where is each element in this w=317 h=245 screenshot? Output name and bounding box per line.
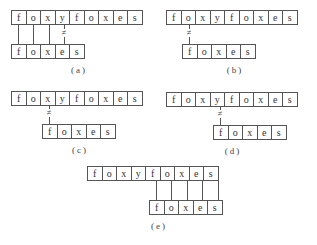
text-cell: o (26, 10, 42, 25)
pattern-cell: x (40, 44, 56, 59)
text-cell: s (203, 166, 219, 181)
pattern-cell: e (257, 125, 273, 140)
pattern-cell: f (11, 44, 27, 59)
not-equal-icon: ≠ (62, 29, 66, 37)
match-line (187, 181, 188, 200)
text-cell: x (40, 10, 56, 25)
not-equal-icon: ≠ (218, 110, 222, 118)
pattern-cell: o (164, 200, 180, 215)
pattern-cell: o (26, 44, 42, 59)
text-cell: e (268, 92, 284, 107)
text-cell: o (84, 91, 100, 106)
text-cell: x (98, 10, 114, 25)
pattern-cell: e (55, 44, 71, 59)
text-cell: f (87, 166, 103, 181)
text-cell: f (145, 166, 161, 181)
pattern-cell: f (182, 44, 198, 59)
pattern-cell: o (228, 125, 244, 140)
match-line (202, 181, 203, 200)
text-cell: y (55, 91, 71, 106)
pattern-cell: f (213, 125, 229, 140)
text-cell: y (210, 10, 226, 25)
pattern-row: f o x e s (42, 124, 116, 139)
text-cell: s (282, 10, 298, 25)
text-cell: f (69, 10, 85, 25)
text-cell: o (26, 91, 42, 106)
pattern-cell: o (197, 44, 213, 59)
pattern-cell: s (69, 44, 85, 59)
pattern-cell: x (211, 44, 227, 59)
pattern-cell: s (100, 124, 116, 139)
text-cell: y (131, 166, 147, 181)
caption-d: (d) (225, 146, 242, 156)
pattern-cell: o (57, 124, 73, 139)
match-line (49, 25, 50, 44)
text-row: f o x y f o x e s (87, 166, 219, 181)
text-cell: f (224, 10, 240, 25)
pattern-cell: s (271, 125, 287, 140)
text-cell: s (127, 10, 143, 25)
pattern-row: f o x e s (11, 44, 85, 59)
not-equal-icon: ≠ (187, 29, 191, 37)
pattern-cell: e (226, 44, 242, 59)
match-line (18, 25, 19, 44)
text-cell: e (268, 10, 284, 25)
text-cell: o (102, 166, 118, 181)
text-cell: y (210, 92, 226, 107)
text-cell: x (98, 91, 114, 106)
text-cell: o (84, 10, 100, 25)
caption-c: (c) (72, 145, 88, 155)
pattern-cell: f (42, 124, 58, 139)
pattern-cell: s (240, 44, 256, 59)
text-cell: y (55, 10, 71, 25)
caption-b: (b) (227, 65, 244, 75)
text-cell: f (166, 92, 182, 107)
text-cell: f (69, 91, 85, 106)
not-equal-icon: ≠ (47, 109, 51, 117)
text-cell: o (181, 92, 197, 107)
pattern-cell: x (242, 125, 258, 140)
text-row: f o x y f o x e s (166, 92, 298, 107)
match-line (171, 181, 172, 200)
text-cell: f (11, 91, 27, 106)
pattern-cell: e (193, 200, 209, 215)
caption-e: (e) (151, 221, 167, 231)
text-cell: x (40, 91, 56, 106)
pattern-row: f o x e s (213, 125, 287, 140)
text-cell: x (195, 92, 211, 107)
text-cell: e (113, 10, 129, 25)
text-cell: x (195, 10, 211, 25)
text-cell: x (116, 166, 132, 181)
text-cell: o (160, 166, 176, 181)
text-row: f o x y f o x e s (11, 91, 143, 106)
text-cell: x (253, 92, 269, 107)
pattern-cell: s (207, 200, 223, 215)
text-cell: o (239, 10, 255, 25)
pattern-cell: x (71, 124, 87, 139)
match-line (156, 181, 157, 200)
text-row: f o x y f o x e s (11, 10, 143, 25)
caption-a: (a) (71, 65, 87, 75)
text-cell: f (166, 10, 182, 25)
text-cell: f (11, 10, 27, 25)
text-cell: s (282, 92, 298, 107)
match-line (33, 25, 34, 44)
pattern-cell: x (178, 200, 194, 215)
text-cell: e (189, 166, 205, 181)
match-line (218, 181, 219, 200)
text-cell: x (174, 166, 190, 181)
pattern-row: f o x e s (182, 44, 256, 59)
text-cell: o (181, 10, 197, 25)
text-cell: o (239, 92, 255, 107)
pattern-cell: f (149, 200, 165, 215)
pattern-cell: e (86, 124, 102, 139)
text-cell: e (113, 91, 129, 106)
pattern-row: f o x e s (149, 200, 223, 215)
text-cell: f (224, 92, 240, 107)
text-row: f o x y f o x e s (166, 10, 298, 25)
text-cell: x (253, 10, 269, 25)
text-cell: s (127, 91, 143, 106)
